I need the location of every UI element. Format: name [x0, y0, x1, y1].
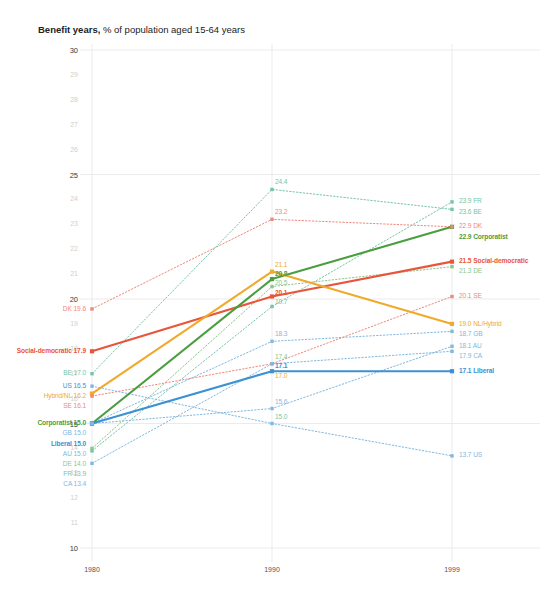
point-label-left: US 16.5 [0, 382, 86, 389]
marker-social-democratic-1990 [270, 294, 274, 298]
marker-be-1999 [450, 208, 453, 211]
point-label-right: 20.1 SE [459, 292, 550, 299]
point-label-left: AU 15.0 [0, 450, 86, 457]
point-label-left: Liberal 15.0 [0, 440, 86, 447]
y-axis-tick-10: 10 [54, 544, 78, 553]
point-label-right: 18.7 GB [459, 330, 550, 337]
y-axis-tick-28: 28 [54, 96, 78, 103]
point-label-left: FR 13.9 [0, 470, 86, 477]
point-label-right: 18.1 AU [459, 342, 550, 349]
marker-gb-1990 [270, 340, 273, 343]
y-axis-tick-27: 27 [54, 121, 78, 128]
marker-fr-1990 [270, 305, 273, 308]
marker-au-1980 [90, 422, 93, 425]
point-label-left: CA 13.4 [0, 480, 86, 487]
point-label-mid: 17.1 [275, 362, 309, 369]
marker-de-1999 [450, 265, 453, 268]
point-label-left: Corporatist 15.0 [0, 419, 86, 426]
y-axis-tick-20: 20 [54, 295, 78, 304]
chart-container: Benefit years, % of population aged 15-6… [0, 0, 550, 589]
point-label-right: 19.0 NL/Hybrid [459, 320, 550, 327]
point-label-right: 21.3 DE [459, 267, 550, 274]
point-label-right: 23.6 BE [459, 208, 550, 215]
y-axis-tick-26: 26 [54, 146, 78, 153]
marker-be-1990 [270, 188, 273, 191]
y-axis-tick-23: 23 [54, 220, 78, 227]
x-axis-tick-1990: 1990 [252, 566, 292, 573]
marker-dk-1990 [270, 218, 273, 221]
point-label-left: Social-democratic 17.9 [0, 347, 86, 354]
point-label-left: SE 16.1 [0, 402, 86, 409]
point-label-right: 22.9 DK [459, 222, 550, 229]
point-label-mid: 24.4 [275, 178, 309, 185]
marker-hybrid-nl-1990 [270, 270, 274, 274]
y-axis-tick-21: 21 [54, 270, 78, 277]
point-label-mid: 17.0 [275, 372, 309, 379]
y-axis-tick-19: 19 [54, 320, 78, 327]
gridlines [80, 44, 540, 562]
marker-us-1999 [450, 454, 453, 457]
marker-social-democratic-1980 [90, 349, 94, 353]
marker-social-democratic-1999 [450, 260, 454, 264]
y-axis-tick-24: 24 [54, 195, 78, 202]
marker-fr-1999 [450, 200, 453, 203]
point-label-right: 17.9 CA [459, 352, 550, 359]
marker-ca-1980 [90, 462, 93, 465]
marker-se-1999 [450, 295, 453, 298]
x-axis-tick-1980: 1980 [72, 566, 112, 573]
marker-gb-1999 [450, 330, 453, 333]
point-label-left: DK 19.6 [0, 305, 86, 312]
point-label-mid: 21.1 [275, 261, 309, 268]
point-label-left: GB 15.0 [0, 429, 86, 436]
point-label-mid: 19.7 [275, 298, 309, 305]
marker-us-1980 [90, 384, 93, 387]
point-label-right: 21.5 Social-democratic [459, 257, 550, 264]
point-label-mid: 23.2 [275, 208, 309, 215]
marker-ca-1990 [270, 362, 273, 365]
y-axis-tick-25: 25 [54, 171, 78, 180]
marker-se-1980 [90, 394, 93, 397]
marker-hybrid-nl-1999 [450, 322, 454, 326]
point-label-mid: 15.6 [275, 398, 309, 405]
point-label-mid: 17.4 [275, 353, 309, 360]
point-label-right: 23.9 FR [459, 197, 550, 204]
marker-corporatist-1990 [270, 277, 274, 281]
marker-liberal-1999 [450, 369, 454, 373]
marker-au-1999 [450, 345, 453, 348]
point-label-right: 22.9 Corporatist [459, 233, 550, 240]
point-label-right: 17.1 Liberal [459, 367, 550, 374]
marker-de-1990 [270, 285, 273, 288]
point-label-left: BE 17.0 [0, 369, 86, 376]
point-label-mid: 18.3 [275, 330, 309, 337]
x-axis-tick-1999: 1999 [432, 566, 472, 573]
point-label-left: Hybrid/NL 16.2 [0, 392, 86, 399]
point-label-mid: 20.8 [275, 270, 309, 277]
marker-liberal-1990 [270, 369, 274, 373]
marker-ca-1999 [450, 350, 453, 353]
point-label-mid: 15.0 [275, 413, 309, 420]
y-axis-tick-22: 22 [54, 245, 78, 252]
marker-us-1990 [270, 422, 273, 425]
y-axis-tick-11: 11 [54, 519, 78, 526]
marker-dk-1999 [450, 225, 453, 228]
point-label-mid: 20.1 [275, 289, 309, 296]
marker-dk-1980 [90, 307, 93, 310]
marker-de-1980 [90, 447, 93, 450]
y-axis-tick-30: 30 [54, 46, 78, 55]
marker-be-1980 [90, 372, 93, 375]
y-axis-tick-12: 12 [54, 494, 78, 501]
y-axis-tick-29: 29 [54, 71, 78, 78]
point-label-right: 13.7 US [459, 451, 550, 458]
marker-au-1990 [270, 407, 273, 410]
point-label-mid: 20.5 [275, 279, 309, 286]
point-label-left: DE 14.0 [0, 460, 86, 467]
